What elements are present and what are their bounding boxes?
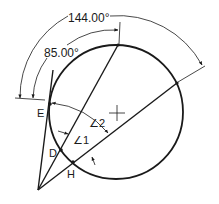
label-angle2: ∠2 (89, 117, 105, 129)
geometry-diagram: 144.00° 85.00° E D H ∠2 ∠1 (0, 0, 219, 204)
label-h: H (67, 168, 75, 180)
label-144: 144.00° (68, 11, 110, 25)
center-mark (109, 105, 125, 121)
dimension-arc-85 (67, 30, 118, 45)
label-d: D (49, 147, 57, 159)
secant-line-right (38, 83, 177, 190)
label-85: 85.00° (44, 46, 79, 60)
point-e (48, 102, 52, 106)
label-angle1: ∠1 (73, 134, 89, 146)
angle1-arrow-right (92, 157, 95, 165)
point-d (59, 148, 63, 152)
angle1-arrow-left (58, 131, 68, 134)
dimension-arc-85-left (33, 58, 47, 98)
extension-line-right (178, 66, 205, 82)
circle (49, 45, 183, 179)
extension-line-top (119, 22, 120, 44)
label-e: E (37, 107, 44, 119)
extension-line-left (15, 98, 45, 100)
point-h (71, 160, 75, 164)
